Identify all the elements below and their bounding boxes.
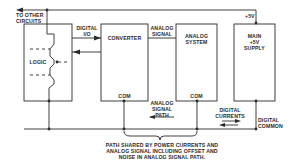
digital-io-line2: I/O [76, 31, 98, 37]
to-other-circuits-label: TO OTHER CIRCUITS [16, 12, 44, 24]
analog-signal-path-line3: PATH [147, 112, 177, 118]
to-other-circuits-line2: CIRCUITS [16, 18, 44, 24]
caption: PATH SHARED BY POWER CURRENTS AND ANALOG… [100, 142, 224, 160]
arrow-right-icon [235, 119, 241, 123]
converter-label: CONVERTER [101, 35, 148, 41]
digital-common-line2: COMMON [258, 123, 283, 129]
arrow-left-icon [219, 123, 225, 127]
main-supply-line3: SUPPLY [234, 45, 275, 51]
logic-label: LOGIC [28, 59, 48, 65]
analog-signal-path-label: ANALOG SIGNAL PATH [147, 100, 177, 118]
plus5v-label: +5V [245, 13, 255, 19]
analog-system-label: ANALOG SYSTEM [176, 33, 217, 45]
main-supply-label: MAIN +5V SUPPLY [234, 33, 275, 51]
analog-signal-label: ANALOG SIGNAL [148, 25, 176, 37]
shared-path-brace [124, 131, 197, 140]
digital-currents-line2: CURRENTS [212, 113, 248, 119]
analog-signal-line2: SIGNAL [148, 31, 176, 37]
analog-system-line2: SYSTEM [176, 39, 217, 45]
converter-com-label: COM [101, 93, 148, 99]
digital-io-label: DIGITAL I/O [76, 25, 98, 37]
digital-currents-label: DIGITAL CURRENTS [212, 107, 248, 119]
digital-common-label: DIGITAL COMMON [258, 117, 283, 129]
analog-com-label: COM [176, 93, 217, 99]
arrow-left-icon [73, 50, 80, 55]
caption-line3: NOISE IN ANALOG SIGNAL PATH. [100, 154, 224, 160]
logic-supply-line [47, 10, 54, 40]
